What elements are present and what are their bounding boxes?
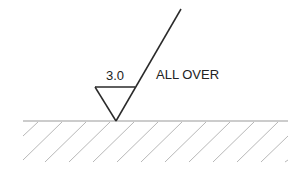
surface-finish-diagram: 3.0 ALL OVER [0,0,302,173]
hatch-line [261,136,288,162]
hatch-line [45,122,86,162]
surface-finish-symbol [95,9,181,121]
hatch-line [69,122,110,162]
hatch-line [189,122,230,162]
hatch-line [237,122,278,162]
hatch-line [23,122,38,136]
hatch-line [285,160,288,162]
surface-hatching [23,122,288,162]
hatch-line [117,122,158,162]
finish-note: ALL OVER [156,67,219,82]
hatch-line [141,122,182,162]
hatch-line [165,122,206,162]
hatch-line [23,122,62,160]
hatch-line [213,122,254,162]
triangle-left-edge [95,87,116,121]
roughness-value: 3.0 [106,68,124,83]
triangle-right-edge-leader [116,9,181,121]
hatch-line [93,122,134,162]
